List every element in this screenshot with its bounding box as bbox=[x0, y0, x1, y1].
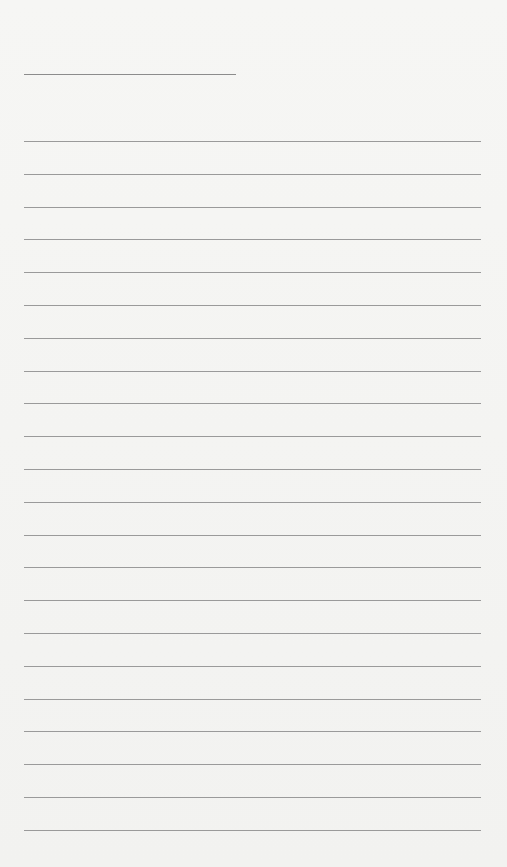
ruled-line bbox=[24, 633, 481, 634]
ruled-line bbox=[24, 600, 481, 601]
ruled-line bbox=[24, 272, 481, 273]
ruled-line bbox=[24, 436, 481, 437]
lined-paper bbox=[0, 0, 507, 867]
ruled-line bbox=[24, 502, 481, 503]
ruled-line bbox=[24, 666, 481, 667]
ruled-line bbox=[24, 403, 481, 404]
ruled-line bbox=[24, 469, 481, 470]
ruled-line bbox=[24, 141, 481, 142]
title-underline bbox=[24, 74, 236, 75]
ruled-line bbox=[24, 699, 481, 700]
ruled-line bbox=[24, 830, 481, 831]
ruled-line bbox=[24, 239, 481, 240]
ruled-line bbox=[24, 567, 481, 568]
ruled-line bbox=[24, 174, 481, 175]
ruled-line bbox=[24, 371, 481, 372]
ruled-line bbox=[24, 338, 481, 339]
ruled-line bbox=[24, 535, 481, 536]
ruled-line bbox=[24, 797, 481, 798]
ruled-line bbox=[24, 305, 481, 306]
ruled-line bbox=[24, 207, 481, 208]
ruled-line bbox=[24, 731, 481, 732]
ruled-line bbox=[24, 764, 481, 765]
